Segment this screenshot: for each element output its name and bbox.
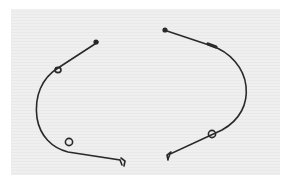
right-wire-sleeve bbox=[208, 44, 216, 47]
right-wire-tip bbox=[163, 28, 167, 32]
left-wire bbox=[36, 40, 125, 166]
left-wire-tip bbox=[94, 40, 98, 44]
left-wire-lower-loop bbox=[65, 138, 72, 145]
right-wire bbox=[163, 28, 246, 160]
wire-pair-photo bbox=[0, 0, 293, 183]
